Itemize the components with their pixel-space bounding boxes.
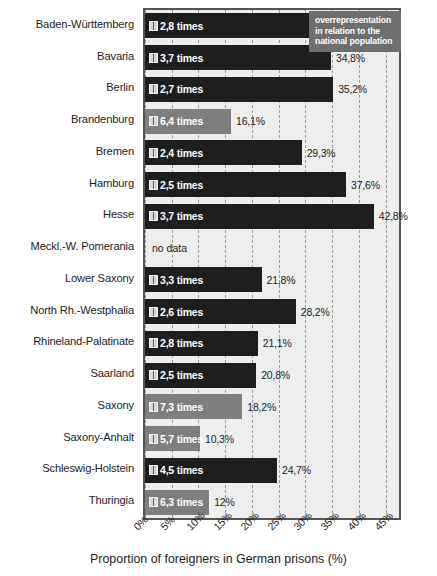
bar-2: 2,7 times [145,77,333,102]
legend-line-2: in relation to the [315,26,396,37]
bar-row: 2,6 times28,2% [145,299,399,324]
legend-callout: overrepresentation in relation to the na… [309,11,401,52]
bar-row: 2,7 times35,2% [145,77,399,102]
category-label-7: Meckl.-W. Pomerania [0,240,134,252]
bar-14: 4,5 times [145,458,277,483]
book-icon [149,370,158,380]
bar-row: 2,5 times20,8% [145,363,399,388]
value-label: 21,8% [267,274,296,286]
overrepresentation-label: 2,8 times [160,20,203,32]
overrepresentation-label: 4,5 times [160,464,203,476]
bar-5: 2,5 times [145,172,346,197]
value-label: 34,8% [336,52,365,64]
value-label: 12% [214,496,234,508]
value-label: 18,2% [247,401,276,413]
category-label-4: Bremen [0,145,134,157]
category-label-15: Thuringia [0,494,134,506]
category-axis-labels: Baden-WürttembergBavariaBerlinBrandenbur… [0,8,138,520]
x-axis-ticks: 0%5%10%15%20%25%30%35%40%45% [143,520,401,554]
bar-row: 6,4 times16,1% [145,109,399,134]
category-label-13: Saxony-Anhalt [0,431,134,443]
overrepresentation-label: 7,3 times [160,401,203,413]
legend-line-1: overrepresentation [315,15,396,26]
book-icon [149,116,158,126]
x-axis-title: Proportion of foreigners in German priso… [0,552,437,566]
bar-row: 7,3 times18,2% [145,394,399,419]
overrepresentation-label: 5,7 times [160,433,203,445]
bar-row: 2,5 times37,6% [145,172,399,197]
overrepresentation-label: 2,6 times [160,306,203,318]
bar-4: 2,4 times [145,140,302,165]
value-label: 24,7% [282,464,311,476]
bar-13: 5,7 times [145,426,200,451]
book-icon [149,497,158,507]
book-icon [149,465,158,475]
category-label-8: Lower Saxony [0,272,134,284]
bar-8: 3,3 times [145,267,262,292]
value-label: 28,2% [301,306,330,318]
value-label: 16,1% [236,115,265,127]
book-icon [149,434,158,444]
category-label-1: Bavaria [0,50,134,62]
category-label-10: Rhineland-Palatinate [0,335,134,347]
value-label: 35,2% [338,83,367,95]
book-icon [149,307,158,317]
bar-9: 2,6 times [145,299,296,324]
book-icon [149,211,158,221]
bar-row: 3,3 times21,8% [145,267,399,292]
book-icon [149,180,158,190]
book-icon [149,53,158,63]
category-label-3: Brandenburg [0,113,134,125]
overrepresentation-label: 6,3 times [160,496,203,508]
bar-0: 2,8 times [145,13,326,38]
bar-row: 4,5 times24,7% [145,458,399,483]
bar-row: no data [145,236,399,261]
book-icon [149,402,158,412]
overrepresentation-label: 3,3 times [160,274,203,286]
overrepresentation-label: 2,4 times [160,147,203,159]
category-label-0: Baden-Württemberg [0,18,134,30]
bar-chart: Baden-WürttembergBavariaBerlinBrandenbur… [0,0,437,576]
bar-11: 2,5 times [145,363,256,388]
bar-12: 7,3 times [145,394,242,419]
overrepresentation-label: 2,8 times [160,337,203,349]
overrepresentation-label: 2,5 times [160,369,203,381]
value-label: 37,6% [351,179,380,191]
category-label-6: Hesse [0,208,134,220]
plot-inner: 2,8 times33,9%3,7 times34,8%2,7 times35,… [145,10,399,518]
overrepresentation-label: 2,7 times [160,83,203,95]
book-icon [149,148,158,158]
value-label: 29,3% [307,147,336,159]
category-label-5: Hamburg [0,177,134,189]
value-label: 10,3% [205,433,234,445]
plot-area: 2,8 times33,9%3,7 times34,8%2,7 times35,… [143,8,401,520]
book-icon [149,275,158,285]
category-label-12: Saxony [0,399,134,411]
overrepresentation-label: 6,4 times [160,115,203,127]
legend-line-3: national population [315,36,396,47]
bar-3: 6,4 times [145,109,231,134]
overrepresentation-label: 2,5 times [160,179,203,191]
category-label-11: Saarland [0,367,134,379]
overrepresentation-label: 3,7 times [160,210,203,222]
book-icon [149,84,158,94]
bar-row: 5,7 times10,3% [145,426,399,451]
value-label: 20,8% [261,369,290,381]
category-label-2: Berlin [0,81,134,93]
overrepresentation-label: 3,7 times [160,52,203,64]
book-icon [149,338,158,348]
value-label: 42,8% [379,210,408,222]
bar-row: 2,4 times29,3% [145,140,399,165]
bar-1: 3,7 times [145,45,331,70]
book-icon [149,21,158,31]
no-data-label: no data [152,242,187,254]
bar-10: 2,8 times [145,331,258,356]
bar-row: 2,8 times21,1% [145,331,399,356]
value-label: 21,1% [263,337,292,349]
bar-6: 3,7 times [145,204,374,229]
bar-row: 3,7 times42,8% [145,204,399,229]
category-label-14: Schleswig-Holstein [0,462,134,474]
category-label-9: North Rh.-Westphalia [0,304,134,316]
